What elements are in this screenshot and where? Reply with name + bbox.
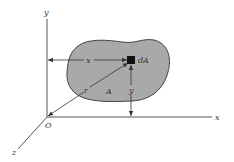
x-distance-label: x bbox=[86, 56, 91, 65]
area-element-dA bbox=[127, 56, 135, 64]
element-label: dA bbox=[138, 56, 149, 65]
y-axis-label: y bbox=[43, 8, 49, 17]
y-distance-label: y bbox=[128, 86, 134, 95]
z-axis-label: z bbox=[11, 148, 17, 157]
area-region bbox=[67, 40, 170, 102]
z-axis bbox=[18, 117, 47, 149]
area-moment-diagram: y x z O dA A x y r bbox=[0, 0, 234, 162]
radius-vector-lower bbox=[48, 92, 84, 116]
x-axis-label: x bbox=[215, 113, 220, 122]
origin-label: O bbox=[45, 121, 52, 130]
area-label: A bbox=[105, 87, 112, 96]
